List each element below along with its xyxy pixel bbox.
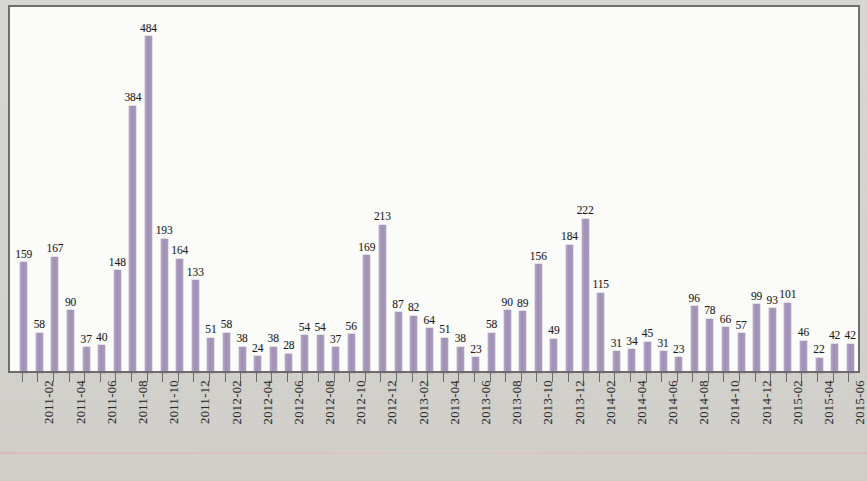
bar — [660, 351, 667, 373]
bar — [706, 319, 713, 373]
bar-item: 51 — [437, 7, 453, 373]
x-axis-tick-label: 2012-06 — [292, 380, 307, 424]
bar-value-label: 82 — [408, 302, 419, 314]
bar-item: 46 — [796, 7, 812, 373]
bar — [800, 341, 807, 373]
bar — [504, 310, 511, 373]
bar — [738, 333, 745, 373]
bar-value-label: 57 — [735, 320, 746, 332]
bar — [114, 270, 121, 373]
x-axis-tick — [380, 373, 381, 382]
bar-value-label: 148 — [109, 257, 126, 269]
bar-item: 38 — [265, 7, 281, 373]
bar-item: 87 — [390, 7, 406, 373]
x-axis-tick-label: 2012-04 — [261, 380, 276, 424]
bar-value-label: 101 — [779, 289, 796, 301]
x-axis-tick — [599, 373, 600, 382]
bar-item: 99 — [749, 7, 765, 373]
bar-value-label: 159 — [15, 249, 32, 261]
bar-value-label: 89 — [517, 298, 528, 310]
x-axis-tick-label: 2014-04 — [635, 380, 650, 424]
bar-value-label: 58 — [221, 319, 232, 331]
x-axis-tick — [661, 373, 662, 382]
x-axis-tick-label: 2015-04 — [822, 380, 837, 424]
bar — [332, 347, 339, 373]
bar-item: 42 — [842, 7, 858, 373]
bar — [550, 339, 557, 373]
x-axis-tick — [630, 373, 631, 382]
bar-value-label: 38 — [268, 333, 279, 345]
bar-value-label: 40 — [96, 332, 107, 344]
bar-value-label: 37 — [80, 334, 91, 346]
bar-item: 28 — [281, 7, 297, 373]
bar-value-label: 167 — [46, 243, 63, 255]
bar-value-label: 51 — [439, 324, 450, 336]
bar — [426, 328, 433, 373]
bar — [145, 36, 152, 373]
bar-item: 31 — [655, 7, 671, 373]
bar-item: 51 — [203, 7, 219, 373]
bar-value-label: 96 — [689, 293, 700, 305]
bar-item: 167 — [47, 7, 63, 373]
bar — [769, 308, 776, 373]
bar-value-label: 484 — [140, 23, 157, 35]
bar-value-label: 56 — [346, 321, 357, 333]
bar — [847, 344, 854, 373]
bar — [628, 349, 635, 373]
x-axis-tick-label: 2011-06 — [105, 380, 120, 424]
x-axis-tick-label: 2012-08 — [323, 380, 338, 424]
bar-item: 78 — [702, 7, 718, 373]
bar — [519, 311, 526, 373]
bar-value-label: 37 — [330, 334, 341, 346]
bar — [441, 338, 448, 373]
x-axis-tick-label: 2013-06 — [479, 380, 494, 424]
bar-item: 37 — [78, 7, 94, 373]
bar — [395, 312, 402, 373]
bar — [784, 303, 791, 373]
x-axis-tick — [536, 373, 537, 382]
bar-item: 54 — [297, 7, 313, 373]
bar-value-label: 31 — [611, 338, 622, 350]
bar-value-label: 42 — [845, 330, 856, 342]
bar-item: 38 — [234, 7, 250, 373]
bar-item: 133 — [188, 7, 204, 373]
x-axis-tick-label: 2012-12 — [385, 380, 400, 424]
bar-item: 64 — [421, 7, 437, 373]
bar — [363, 255, 370, 373]
x-axis-tick — [443, 373, 444, 382]
bar — [129, 106, 136, 373]
x-axis-tick — [162, 373, 163, 382]
x-axis-tick — [568, 373, 569, 382]
bar-value-label: 23 — [673, 344, 684, 356]
bar — [582, 219, 589, 374]
bar-item: 164 — [172, 7, 188, 373]
bar-value-label: 28 — [283, 340, 294, 352]
bar-value-label: 22 — [813, 344, 824, 356]
bar-value-label: 78 — [704, 305, 715, 317]
bar-value-label: 51 — [205, 324, 216, 336]
x-axis-tick-label: 2011-10 — [167, 380, 182, 424]
x-axis-tick — [22, 373, 23, 382]
bar-item: 156 — [531, 7, 547, 373]
bar-item: 169 — [359, 7, 375, 373]
bar — [207, 338, 214, 373]
bar-value-label: 66 — [720, 314, 731, 326]
bar-value-label: 64 — [424, 315, 435, 327]
bar-value-label: 58 — [34, 319, 45, 331]
bar — [410, 316, 417, 373]
x-axis-tick-label: 2012-10 — [354, 380, 369, 424]
bar-item: 90 — [499, 7, 515, 373]
bar-value-label: 90 — [501, 297, 512, 309]
bar — [239, 347, 246, 373]
bar-item: 82 — [406, 7, 422, 373]
bar-value-label: 99 — [751, 291, 762, 303]
x-axis-tick — [848, 373, 849, 382]
bar-value-label: 184 — [561, 231, 578, 243]
x-axis-tick-label: 2011-04 — [74, 380, 89, 424]
x-axis-tick — [412, 373, 413, 382]
bar — [753, 304, 760, 373]
bar — [36, 333, 43, 373]
bar-value-label: 23 — [470, 344, 481, 356]
bar-item: 23 — [671, 7, 687, 373]
bar-item: 37 — [328, 7, 344, 373]
